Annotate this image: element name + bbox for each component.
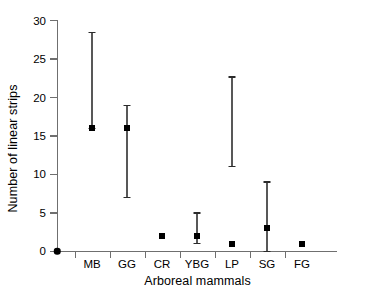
error-bar-cap-upper <box>229 76 236 77</box>
y-tick-label: 10 <box>20 168 46 180</box>
error-bar-cap-lower <box>264 251 271 252</box>
y-tick-mark <box>50 20 57 21</box>
y-tick-label: 15 <box>20 130 46 142</box>
y-tick-label: 25 <box>20 53 46 65</box>
data-point-mb <box>89 125 95 131</box>
y-tick-label: 30 <box>20 15 46 27</box>
y-tick-mark <box>50 97 57 98</box>
y-tick-mark <box>50 135 57 136</box>
x-tick-label-fg: FG <box>275 258 329 270</box>
data-point-ybg <box>194 233 200 239</box>
error-bar-sg <box>266 182 267 251</box>
data-point-fg <box>299 241 305 247</box>
error-bar-gg <box>126 105 127 197</box>
error-bar-cap-upper <box>89 32 96 33</box>
data-point-cr <box>159 233 165 239</box>
data-point-gg <box>124 125 130 131</box>
error-bar-mb <box>91 32 92 128</box>
y-axis-line <box>57 20 58 252</box>
error-bar-cap-lower <box>194 243 201 244</box>
x-axis-title: Arboreal mammals <box>55 274 340 288</box>
error-bar-cap-upper <box>194 212 201 213</box>
error-bar-cap-lower <box>229 166 236 167</box>
y-tick-label: 5 <box>20 207 46 219</box>
y-tick-mark <box>50 212 57 213</box>
origin-point-marker <box>54 248 61 255</box>
y-tick-label: 0 <box>20 245 46 257</box>
error-bar-cap-lower <box>124 197 131 198</box>
chart-container: Number of linear strips 051015202530 MBG… <box>0 0 369 297</box>
error-bar-lp <box>231 77 232 167</box>
error-bar-ybg <box>196 213 197 244</box>
x-axis-line <box>57 251 337 252</box>
error-bar-cap-upper <box>264 181 271 182</box>
y-tick-label: 20 <box>20 92 46 104</box>
y-tick-mark <box>50 174 57 175</box>
data-point-sg <box>264 225 270 231</box>
error-bar-cap-upper <box>124 105 131 106</box>
y-tick-mark <box>50 58 57 59</box>
data-point-lp <box>229 241 235 247</box>
